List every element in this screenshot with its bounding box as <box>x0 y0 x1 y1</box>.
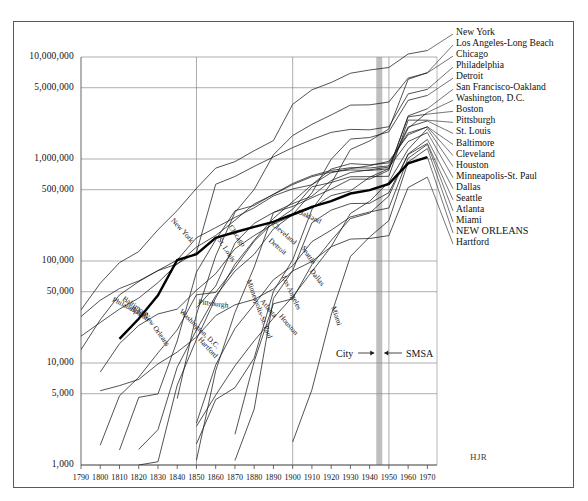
y-tick-label: 1,000,000 <box>4 153 74 163</box>
series-label-right: Philadelphia <box>456 59 504 70</box>
series-label-right: Hartford <box>456 236 489 247</box>
leader-line <box>427 139 453 188</box>
series-label-right: Pittsburgh <box>456 114 495 125</box>
series-line <box>196 133 427 461</box>
leader-line <box>427 143 453 199</box>
leader-line <box>427 111 453 114</box>
leader-line <box>427 34 453 51</box>
series-label-right: Detroit <box>456 70 483 81</box>
series-label-right: Atlanta <box>456 203 484 214</box>
series-label-right: Minneapolis-St. Paul <box>456 170 537 181</box>
leader-line <box>427 129 453 167</box>
y-tick-label: 500,000 <box>4 184 74 194</box>
series-label-right: NEW ORLEANS <box>456 225 529 236</box>
series-label-right: Miami <box>456 214 482 225</box>
series-label-right: San Francisco-Oakland <box>456 81 546 92</box>
x-tick-label: 1970 <box>414 473 440 482</box>
signature: HJR <box>470 452 487 462</box>
leader-line <box>427 144 453 210</box>
annotation-smsa: SMSA <box>406 348 433 359</box>
plot-canvas <box>0 0 588 501</box>
series-line <box>81 127 427 350</box>
population-growth-chart: 10,000,0005,000,0001,000,000500,000100,0… <box>0 0 588 501</box>
series-label-right: Dallas <box>456 181 481 192</box>
series-label-right: New York <box>456 26 495 37</box>
y-tick-label: 10,000 <box>4 357 74 367</box>
y-tick-label: 5,000,000 <box>4 82 74 92</box>
series-line <box>139 127 428 465</box>
leader-line <box>427 78 453 95</box>
series-label-right: Cleveland <box>456 148 495 159</box>
y-tick-label: 100,000 <box>4 255 74 265</box>
series-label-right: Washington, D.C. <box>456 92 525 103</box>
annotation-city: City <box>336 348 353 359</box>
y-tick-label: 10,000,000 <box>4 51 74 61</box>
series-label-right: Boston <box>456 103 483 114</box>
series-line <box>81 51 427 310</box>
series-label-right: Seattle <box>456 192 482 203</box>
series-label-right: Baltimore <box>456 137 494 148</box>
y-tick-label: 1,000 <box>4 459 74 469</box>
leader-line <box>427 127 453 145</box>
leader-line <box>427 100 453 112</box>
y-tick-label: 5,000 <box>4 388 74 398</box>
leader-line <box>427 120 453 122</box>
leader-line <box>427 89 453 108</box>
series-label-right: Houston <box>456 159 489 170</box>
series-label-right: St. Louis <box>456 125 491 136</box>
leader-line <box>427 157 453 233</box>
series-label-right: Los Angeles-Long Beach <box>456 37 554 48</box>
y-tick-label: 50,000 <box>4 286 74 296</box>
series-line <box>196 144 427 423</box>
series-label-right: Chicago <box>456 48 488 59</box>
